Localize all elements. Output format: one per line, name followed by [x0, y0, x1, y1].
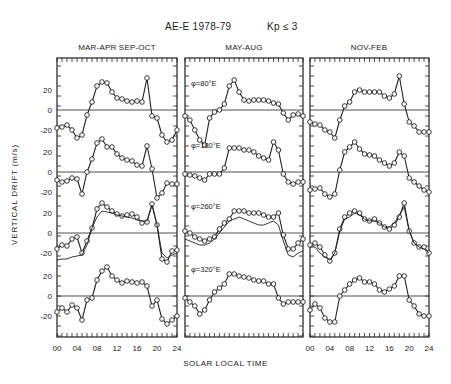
data-point [422, 188, 427, 193]
data-point [313, 187, 318, 192]
data-point [55, 178, 60, 183]
y-tick-label: 0 [48, 292, 53, 301]
data-point [175, 128, 180, 133]
data-point [222, 166, 227, 171]
data-point [110, 90, 115, 95]
data-point [183, 296, 188, 301]
data-point [286, 180, 291, 185]
data-point [183, 229, 188, 234]
data-point [188, 231, 193, 236]
data-point [65, 123, 70, 128]
data-point [155, 196, 160, 201]
data-point [130, 212, 135, 217]
data-point [145, 284, 150, 289]
data-point [175, 248, 180, 253]
data-point [90, 100, 95, 105]
data-point [207, 237, 212, 242]
data-point [193, 304, 198, 309]
x-tick-label: 20 [405, 344, 414, 353]
data-point [197, 312, 202, 317]
data-point [100, 137, 105, 142]
drift-curve [185, 274, 303, 314]
data-point [100, 201, 105, 206]
data-point [407, 176, 412, 181]
data-point [212, 290, 217, 295]
model-curve [310, 207, 429, 260]
data-point [276, 102, 281, 107]
data-point [242, 148, 247, 153]
data-point [261, 156, 266, 161]
y-tick-label: 0 [48, 106, 53, 115]
data-point [422, 314, 427, 319]
data-point [105, 265, 110, 270]
data-point [232, 272, 237, 277]
data-point [332, 320, 337, 325]
data-point [342, 150, 347, 155]
data-point [193, 128, 198, 133]
data-point [95, 278, 100, 283]
data-point [387, 164, 392, 169]
data-point [347, 100, 352, 105]
data-point [227, 146, 232, 151]
data-point [105, 81, 110, 86]
data-point [332, 136, 337, 141]
data-point [120, 156, 125, 161]
data-point [412, 304, 417, 309]
data-point [291, 247, 296, 252]
data-point [256, 279, 261, 284]
data-point [145, 76, 150, 81]
data-point [271, 282, 276, 287]
data-point [90, 296, 95, 301]
data-point [392, 92, 397, 97]
data-point [60, 306, 65, 311]
data-point [407, 298, 412, 303]
data-point [276, 296, 281, 301]
data-point [382, 161, 387, 166]
data-point [75, 136, 80, 141]
longitude-label: φ=320°E [191, 265, 221, 274]
data-point [232, 209, 237, 214]
data-point [125, 158, 130, 163]
data-point [247, 99, 252, 104]
data-point [90, 157, 95, 162]
x-tick-label: 04 [325, 344, 334, 353]
data-point [237, 146, 242, 151]
data-point [237, 209, 242, 214]
data-point [318, 245, 323, 250]
data-point [170, 182, 175, 187]
data-point [207, 172, 212, 177]
data-point [337, 168, 342, 173]
y-tick-label: 20 [43, 272, 52, 281]
data-point [318, 306, 323, 311]
data-point [183, 114, 188, 119]
data-point [377, 288, 382, 293]
data-point [301, 300, 306, 305]
x-tick-label: 08 [93, 344, 102, 353]
data-point [367, 153, 372, 158]
data-point [217, 108, 222, 113]
x-tick-label: 00 [306, 344, 315, 353]
data-point [120, 97, 125, 102]
data-point [100, 269, 105, 274]
longitude-label: φ=180°E [191, 141, 221, 150]
data-point [212, 172, 217, 177]
data-point [140, 280, 145, 285]
data-point [80, 192, 85, 197]
data-point [125, 99, 130, 104]
data-point [115, 96, 120, 101]
data-point [252, 150, 257, 155]
data-point [377, 90, 382, 95]
y-tick-label: 20 [43, 86, 52, 95]
data-point [357, 276, 362, 281]
data-point [65, 310, 70, 315]
data-point [130, 100, 135, 105]
model-curve [185, 217, 303, 257]
data-point [95, 207, 100, 212]
drift-curve [185, 211, 303, 249]
data-point [318, 123, 323, 128]
y-tick-label: -20 [40, 188, 52, 197]
y-tick-label: 20 [43, 209, 52, 218]
data-point [170, 318, 175, 323]
data-point [222, 282, 227, 287]
data-point [140, 100, 145, 105]
